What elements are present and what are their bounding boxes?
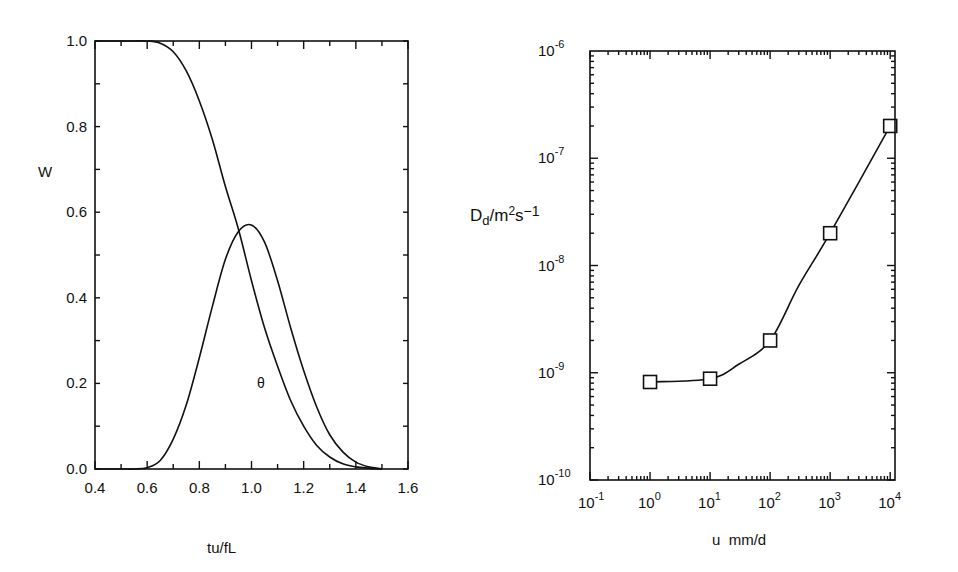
y-tick-label: 1.0	[66, 32, 87, 49]
x-tick-label: 0.8	[189, 479, 210, 496]
x-tick-label: 1.4	[345, 479, 366, 496]
y-tick-label: 0.4	[66, 289, 87, 306]
right-x-axis-label: u mm/d	[712, 531, 766, 548]
square-marker	[824, 227, 837, 240]
left-plot-frame	[95, 41, 408, 469]
x-tick-label: 1.2	[293, 479, 314, 496]
theta-annotation: θ	[257, 375, 265, 391]
y-tick-label: 0.8	[66, 118, 87, 135]
y-tick-label: 10-10	[538, 467, 571, 488]
square-marker	[704, 372, 717, 385]
y-tick-label: 10-8	[538, 253, 564, 274]
y-tick-label: 0.6	[66, 203, 87, 220]
y-tick-label: 10-7	[538, 145, 564, 166]
curve-w	[95, 41, 382, 469]
x-tick-label: 1.0	[241, 479, 262, 496]
left-chart-wdistribution: 0.40.60.81.01.21.41.60.00.20.40.60.81.0 …	[38, 32, 418, 556]
curve-theta	[95, 224, 382, 469]
left-y-axis-label: W	[38, 163, 53, 180]
right-axis-ticks	[590, 51, 895, 480]
x-tick-label: 103	[818, 490, 841, 511]
y-tick-label: 0.2	[66, 374, 87, 391]
x-tick-label: 1.6	[398, 479, 419, 496]
left-axis-tick-labels: 0.40.60.81.01.21.41.60.00.20.40.60.81.0	[66, 32, 418, 496]
x-tick-label: 101	[698, 490, 721, 511]
x-tick-label: 102	[758, 490, 781, 511]
y-tick-label: 10-6	[538, 38, 564, 59]
x-tick-label: 10-1	[578, 490, 604, 511]
y-tick-label: 10-9	[538, 360, 564, 381]
x-tick-label: 0.4	[85, 479, 106, 496]
x-tick-label: 104	[878, 490, 901, 511]
x-tick-label: 100	[638, 490, 661, 511]
figure: 0.40.60.81.01.21.41.60.00.20.40.60.81.0 …	[0, 0, 958, 572]
x-tick-label: 0.6	[137, 479, 158, 496]
right-y-axis-label: Dd/m2s−1	[470, 203, 540, 228]
right-chart-dispersion: 10-110010110210310410-1010-910-810-710-6…	[470, 38, 901, 548]
square-marker	[644, 375, 657, 388]
right-square-markers	[644, 119, 897, 388]
left-curves	[95, 41, 382, 469]
right-plot-frame	[590, 51, 895, 480]
left-axis-ticks	[95, 41, 408, 469]
square-marker	[764, 334, 777, 347]
right-axis-tick-labels: 10-110010110210310410-1010-910-810-710-6	[538, 38, 901, 511]
left-x-axis-label: tu/fL	[207, 539, 236, 556]
y-tick-label: 0.0	[66, 460, 87, 477]
